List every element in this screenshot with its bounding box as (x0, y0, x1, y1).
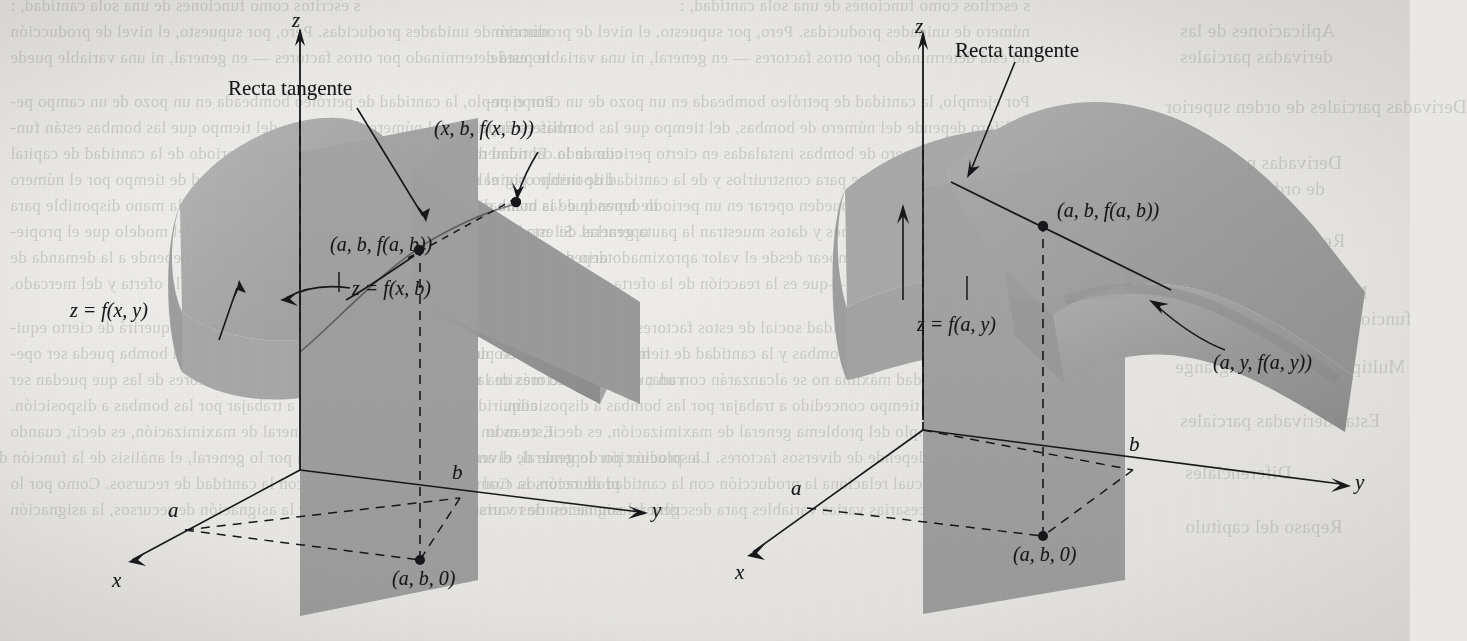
plane-label: z = f(a, y) (917, 314, 996, 334)
point-upper-marker (511, 197, 521, 207)
y-axis-label: y (1355, 472, 1364, 493)
base-point-label: (a, b, 0) (1013, 544, 1076, 564)
tick-a-label: a (168, 500, 179, 521)
tangent-line-label: Recta tangente (955, 40, 1079, 61)
y-axis-arrow (628, 506, 648, 519)
surface-label: z = f(x, y) (70, 300, 148, 320)
z-axis-label: z (915, 16, 923, 37)
plane-front-face (300, 268, 478, 616)
tick-b-label: b (1129, 434, 1140, 455)
curve-point-label: (a, y, f(a, y)) (1213, 352, 1312, 372)
x-axis-arrow (747, 544, 765, 560)
surface-back-edge (832, 190, 847, 380)
right-figure: Recta tangente (a, b, f(a, b)) z = f(a, … (705, 0, 1410, 641)
point-base-marker (1038, 531, 1048, 541)
y-axis-label: y (652, 500, 661, 521)
x-axis-line (753, 430, 923, 552)
point-tangency-label: (a, b, f(a, b)) (330, 234, 432, 254)
left-figure: Recta tangente (x, b, f(x, b)) (a, b, f(… (0, 0, 705, 641)
tick-b-label: b (452, 462, 463, 483)
tick-a-label: a (791, 478, 802, 499)
point-upper-label: (x, b, f(x, b)) (434, 118, 534, 138)
tangent-line-label: Recta tangente (228, 78, 352, 99)
x-axis-arrow (128, 552, 146, 566)
x-axis-label: x (735, 562, 744, 583)
base-point-label: (a, b, 0) (392, 568, 455, 588)
curve-label: z = f(x, b) (352, 278, 431, 298)
leader-upper-point (518, 152, 538, 194)
point-base-marker (415, 555, 425, 565)
z-axis-label: z (292, 10, 300, 31)
x-axis-line (132, 470, 300, 560)
x-axis-label: x (112, 570, 121, 591)
point-tangency-marker (1038, 221, 1048, 231)
y-axis-arrow (1331, 478, 1351, 492)
point-tangency-label: (a, b, f(a, b)) (1057, 200, 1159, 220)
surface-left-edge (168, 205, 182, 372)
